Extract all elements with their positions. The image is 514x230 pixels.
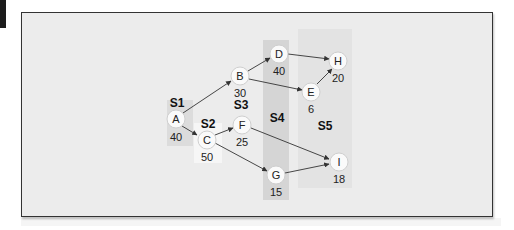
edge-a-b: [183, 81, 231, 113]
stage-label-s1: S1: [170, 96, 185, 110]
stage-label-s2: S2: [201, 117, 216, 131]
node-e-label: E: [307, 86, 314, 98]
node-i-value: 18: [333, 173, 345, 185]
stage-bands: [167, 29, 352, 200]
node-f-label: F: [239, 119, 246, 131]
node-c-label: C: [203, 134, 211, 146]
node-b-label: B: [236, 70, 243, 82]
node-f: F 25: [233, 116, 251, 148]
network-diagram: A 40 B 30 C 50 D 40 E 6 F 25: [0, 0, 514, 230]
node-g-value: 15: [270, 186, 282, 198]
node-e-value: 6: [308, 103, 314, 115]
stage-label-s3: S3: [234, 98, 249, 112]
stage-label-s5: S5: [318, 119, 333, 133]
node-b: B 30: [231, 67, 249, 99]
node-a-label: A: [172, 113, 180, 125]
node-d-label: D: [275, 48, 283, 60]
node-g-label: G: [272, 169, 281, 181]
node-h-label: H: [334, 55, 342, 67]
node-c-value: 50: [201, 151, 213, 163]
node-h-value: 20: [332, 72, 344, 84]
stage-label-s4: S4: [270, 111, 285, 125]
node-f-value: 25: [236, 136, 248, 148]
node-i-label: I: [337, 156, 340, 168]
node-d-value: 40: [273, 65, 285, 77]
node-a-value: 40: [170, 131, 182, 143]
